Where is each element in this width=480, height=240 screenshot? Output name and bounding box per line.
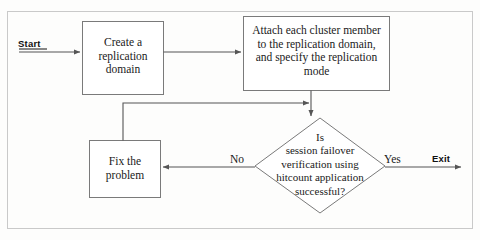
node-fix-the-problem [90,141,161,198]
edge-label-no: No [230,153,244,165]
terminal-label-exit: Exit [432,153,450,164]
flowchart-diagram: Create a replication domain Attach each … [0,0,480,240]
diagram-frame [8,12,473,229]
node-failover-verification-decision [255,118,385,213]
flowchart-canvas [0,0,480,240]
node-create-replication-domain [83,22,164,95]
edge-fix-to-decision-loop [123,103,309,141]
node-attach-cluster-members [244,17,390,91]
terminal-label-start: Start [18,38,41,49]
edge-label-yes: Yes [384,153,401,165]
